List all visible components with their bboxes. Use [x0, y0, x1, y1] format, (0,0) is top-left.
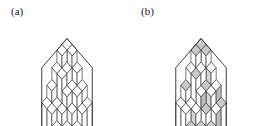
- hexagon-tiling-shaded: [134, 0, 268, 126]
- panel-a: (a): [0, 0, 134, 126]
- hexagon-tiling-plain: [0, 0, 134, 126]
- figure-container: (a) (b): [0, 0, 269, 126]
- panel-b: (b): [134, 0, 268, 126]
